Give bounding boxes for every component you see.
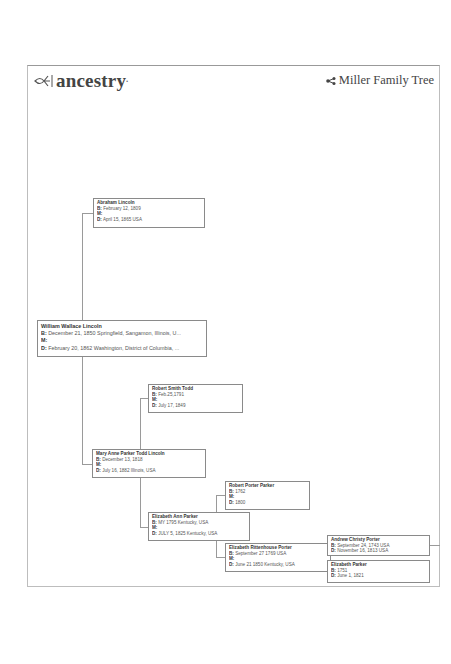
person-card-elizabeth-ann-parker[interactable]: Elizabeth Ann Parker B: MY 1795 Kentucky… [148,512,250,541]
birth-value: December 21, 1850 Springfield, Sangamon,… [48,330,181,336]
death-value: June 1, 1821 [337,573,364,578]
tree-title-text: Miller Family Tree [339,73,434,88]
person-card-robert-porter-parker[interactable]: Robert Porter Parker B: 1762 M: D: 1800 [225,481,310,510]
tree-share-icon [326,77,336,85]
connector [82,464,92,465]
connector [216,541,217,557]
death-value: July 16, 1882 Illinois, USA [102,468,155,473]
person-card-andrew-christy-porter[interactable]: Andrew Christy Porter B: September 24, 1… [327,535,430,556]
person-card-abraham-lincoln[interactable]: Abraham Lincoln B: February 12, 1809 M: … [93,198,205,228]
brand-name: ancestry [56,70,126,92]
death-value: 1800 [235,500,245,505]
tree-title: Miller Family Tree [326,73,434,88]
connector [216,557,225,558]
connector [216,495,225,496]
birth-value: MY 1795 Kentucky, USA [158,520,208,525]
birth-value: December 13, 1818 [102,457,142,462]
birth-value: 1751 [337,568,347,573]
person-name: William Wallace Lincoln [41,323,203,330]
person-card-elizabeth-rittenhouse-porter[interactable]: Elizabeth Rittenhouse Porter B: Septembe… [225,543,331,572]
connector [140,527,148,528]
birth-value: Feb.25,1791 [158,392,184,397]
death-value: April 15, 1865 USA [103,217,142,222]
birth-value: September 27 1769 USA [235,551,286,556]
connector [82,213,83,320]
birth-value: September 24, 1743 USA [337,543,389,548]
ancestry-logo[interactable]: ancestry• [34,70,128,92]
connector [430,545,440,546]
person-card-robert-smith-todd[interactable]: Robert Smith Todd B: Feb.25,1791 M: D: J… [148,384,243,413]
person-card-mary-anne-parker-todd-lincoln[interactable]: Mary Anne Parker Todd Lincoln B: Decembe… [92,449,206,478]
connector [140,398,141,449]
birth-value: February 12, 1809 [103,206,141,211]
person-card-william-wallace-lincoln[interactable]: William Wallace Lincoln B: December 21, … [37,320,207,357]
death-value: JULY 5, 1825 Kentucky, USA [158,531,217,536]
connector [140,398,148,399]
connector [82,357,83,464]
ancestry-leaf-icon [34,73,54,89]
death-value: July 17, 1849 [158,403,185,408]
trademark: • [126,78,128,84]
connector [82,213,93,214]
death-value: June 21 1850 Kentucky, USA [235,562,295,567]
death-value: November 16, 1813 USA [337,548,388,553]
connector [140,478,141,527]
death-value: February 20, 1862 Washington, District o… [48,345,179,351]
birth-value: 1762 [235,489,245,494]
connector [216,495,217,512]
person-card-elizabeth-parker[interactable]: Elizabeth Parker B: 1751 D: June 1, 1821 [327,560,430,583]
